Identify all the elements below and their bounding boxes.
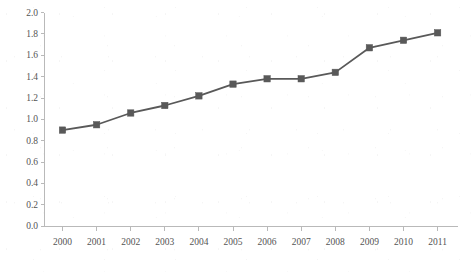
x-axis-tick-marks	[63, 227, 438, 232]
x-tick-label-2000: 2000	[53, 237, 72, 247]
y-tick-label: 1.6	[26, 50, 38, 60]
series-marker	[264, 76, 270, 82]
y-tick-label: 0.8	[26, 136, 38, 146]
y-tick-label: 0.2	[26, 200, 38, 210]
figure-caption	[0, 265, 472, 272]
line-chart-figure: 2.0 1.8 1.6 1.4 1.2 1.0 0.8 0.6 0.4 0.2 …	[0, 0, 472, 272]
x-axis-tick-labels: 2000 2001 2002 2003 2004 2005 2006 2007 …	[53, 237, 447, 247]
y-tick-label: 0.6	[26, 157, 38, 167]
x-tick-label-2001: 2001	[87, 237, 106, 247]
y-tick-label: 1.0	[26, 114, 38, 124]
series-marker	[128, 110, 134, 116]
x-tick-label-2005: 2005	[224, 237, 243, 247]
series-marker	[332, 69, 338, 75]
x-tick-label-2007: 2007	[292, 237, 311, 247]
x-tick-label-2006: 2006	[258, 237, 277, 247]
series-marker	[162, 102, 168, 108]
y-tick-label: 1.8	[26, 29, 38, 39]
x-tick-label-2003: 2003	[155, 237, 174, 247]
y-axis-tick-labels: 2.0 1.8 1.6 1.4 1.2 1.0 0.8 0.6 0.4 0.2 …	[26, 8, 38, 231]
y-tick-label: 0.4	[26, 178, 38, 188]
series-marker	[230, 81, 236, 87]
series-marker	[434, 30, 440, 36]
series-marker	[298, 76, 304, 82]
y-tick-label: 0.0	[26, 221, 38, 231]
x-tick-label-2011: 2011	[428, 237, 447, 247]
series-line-path	[63, 33, 438, 130]
x-tick-label-2009: 2009	[360, 237, 379, 247]
x-tick-label-2002: 2002	[121, 237, 140, 247]
x-tick-label-2004: 2004	[189, 237, 208, 247]
y-tick-label: 1.4	[26, 72, 38, 82]
series-marker	[196, 93, 202, 99]
series-marker	[59, 127, 65, 133]
x-tick-label-2010: 2010	[394, 237, 413, 247]
y-tick-label: 2.0	[26, 8, 38, 18]
x-tick-label-2008: 2008	[326, 237, 345, 247]
y-axis-tick-marks	[41, 13, 44, 227]
y-tick-label: 1.2	[26, 93, 38, 103]
series-marker	[366, 45, 372, 51]
series-marker	[400, 37, 406, 43]
chart-plot-area: 2.0 1.8 1.6 1.4 1.2 1.0 0.8 0.6 0.4 0.2 …	[0, 0, 472, 272]
series-marker	[93, 122, 99, 128]
